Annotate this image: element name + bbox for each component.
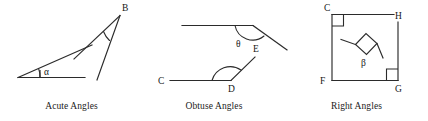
right-angle-square-C <box>332 15 344 27</box>
panel-right-angles: β C H F G <box>320 3 402 94</box>
acute-B-ray-upper <box>74 16 120 60</box>
caption-right-angles: Right Angles <box>285 101 428 111</box>
vertex-label-D: D <box>228 84 235 94</box>
vertex-label-E: E <box>253 44 259 54</box>
theta-label: θ <box>236 39 241 49</box>
obtuse-ray-DE <box>231 57 255 81</box>
vertex-label-F: F <box>320 76 325 86</box>
right-angle-square-G <box>387 69 399 81</box>
angle-D-arc <box>212 67 241 81</box>
caption-acute-angles: Acute Angles <box>0 101 143 111</box>
acute-B-ray-lower <box>97 16 120 81</box>
beta-label: β <box>361 58 366 68</box>
panel-acute-angles: α B <box>18 3 128 80</box>
theta-angle-arc <box>235 26 264 41</box>
angle-types-figure: α B θ E C D <box>0 0 428 121</box>
vertex-label-B: B <box>122 3 128 13</box>
beta-ray-right <box>377 44 383 59</box>
panel-obtuse-angles: θ E C D <box>158 26 287 95</box>
vertex-label-C-obtuse: C <box>158 76 164 86</box>
beta-right-angle-square <box>356 34 378 55</box>
vertex-label-G: G <box>395 84 402 94</box>
angle-B-arc <box>104 32 110 41</box>
vertex-label-C-right: C <box>324 3 330 13</box>
acute-alpha-upper-ray <box>18 45 92 78</box>
vertex-label-H: H <box>395 11 402 21</box>
alpha-label: α <box>44 67 49 77</box>
caption-obtuse-angles: Obtuse Angles <box>143 101 285 111</box>
beta-ray-left <box>341 40 356 45</box>
